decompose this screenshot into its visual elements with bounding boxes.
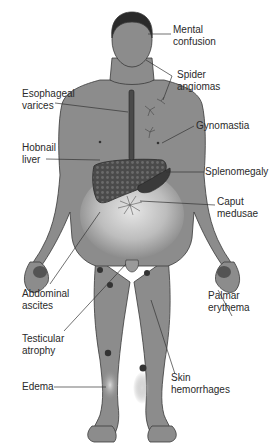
cirrhosis-body-diagram: Mental confusion Spider angiomas Esophag… (0, 0, 279, 445)
right-hand (215, 262, 239, 292)
left-foot (88, 426, 116, 442)
nipple-left (99, 141, 102, 144)
label-abdominal-ascites: Abdominal ascites (22, 288, 69, 311)
label-caput-medusae: Caput medusae (217, 196, 258, 219)
nipple-right (157, 142, 160, 145)
edema-highlight-right (133, 372, 151, 404)
edema-highlight-left (101, 369, 119, 401)
label-testicular-atrophy: Testicular atrophy (22, 333, 64, 356)
label-edema: Edema (22, 381, 54, 393)
esophagus (129, 90, 134, 160)
palmar-erythema-left (33, 266, 47, 278)
body-illustration (0, 0, 279, 445)
genitals (125, 260, 138, 272)
palmar-erythema-right (217, 266, 231, 278)
label-hobnail-liver: Hobnail liver (22, 142, 56, 165)
label-skin-hemorrhages: Skin hemorrhages (171, 372, 230, 395)
label-palmar-erythema: Palmar erythema (208, 290, 250, 313)
label-splenomegaly: Splenomegaly (205, 166, 268, 178)
label-spider-angiomas: Spider angiomas (177, 69, 220, 92)
label-gynomastia: Gynomastia (196, 120, 249, 132)
right-foot (148, 426, 176, 442)
label-mental-confusion: Mental confusion (173, 24, 216, 47)
label-esophageal-varices: Esophageal varices (22, 88, 75, 111)
